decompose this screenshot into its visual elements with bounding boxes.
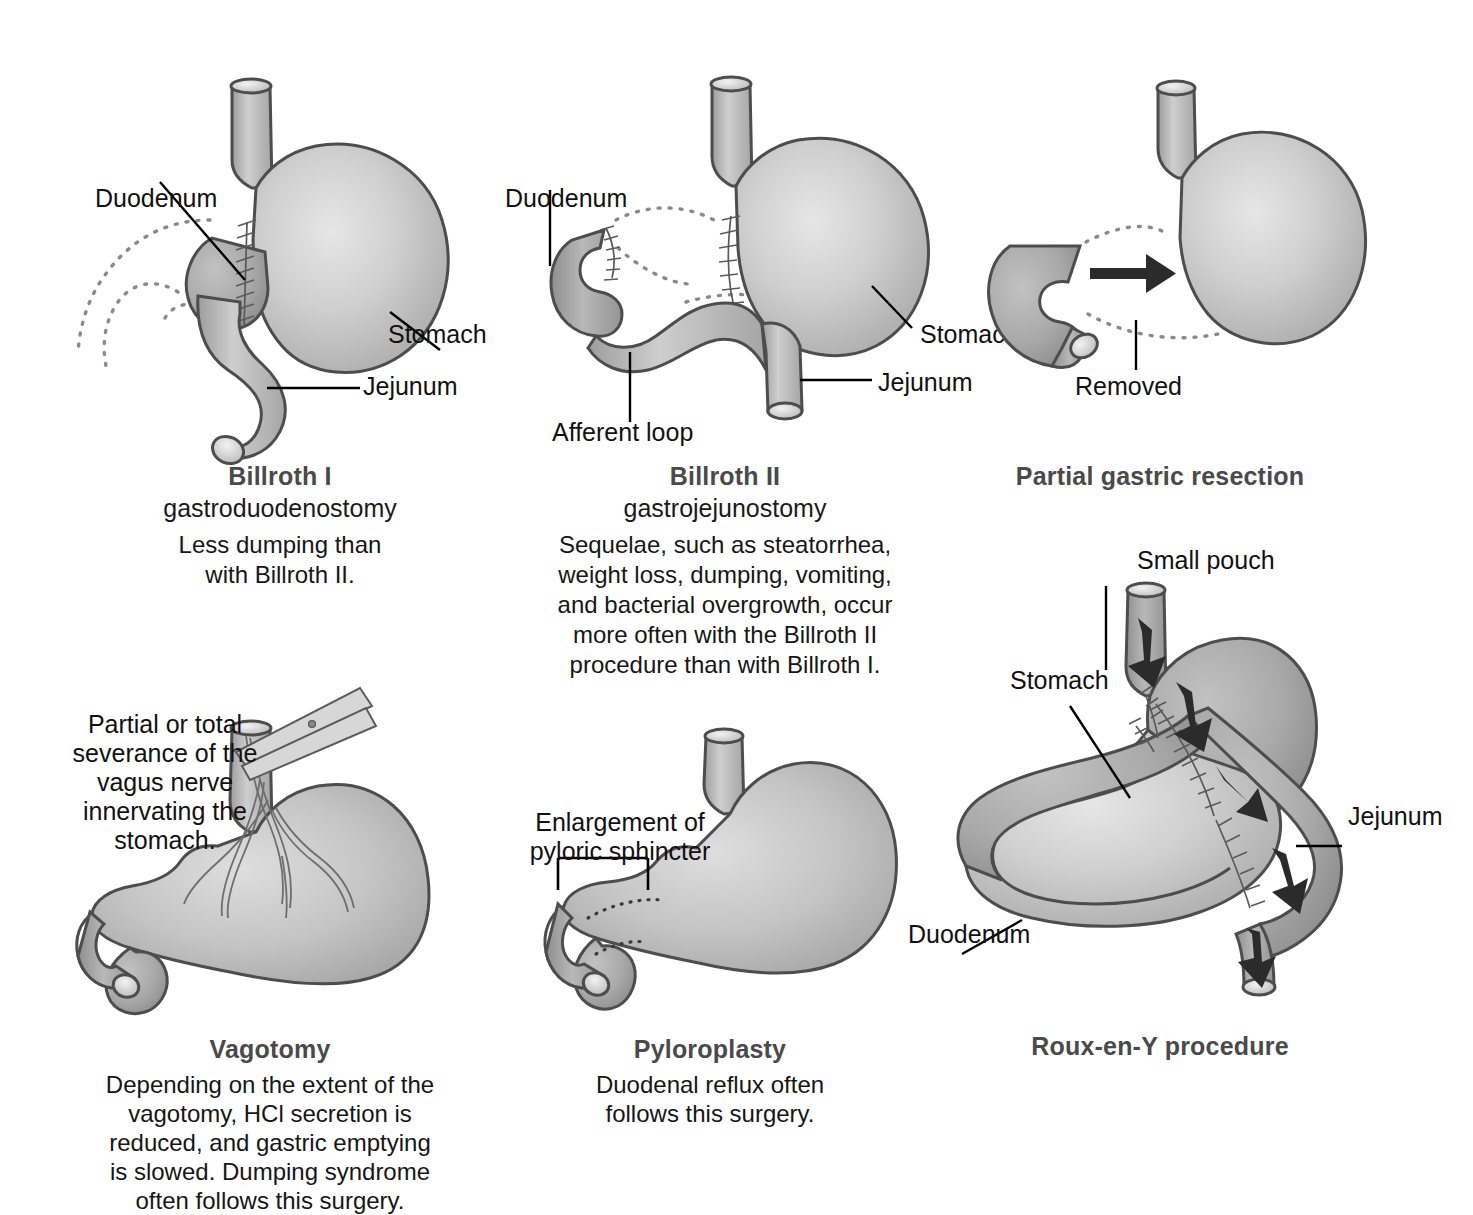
billroth-1-illustration xyxy=(60,70,500,460)
caption-title-roux-en-y: Roux-en-Y procedure xyxy=(930,1032,1390,1061)
caption-body-line4-b2: more often with the Billroth II xyxy=(500,620,950,649)
caption-body-line1-b2: Sequelae, such as steatorrhea, xyxy=(500,530,950,559)
caption-body-line3-b2: and bacterial overgrowth, occur xyxy=(500,590,950,619)
caption-body-line5-vagotomy: often follows this surgery. xyxy=(50,1186,490,1215)
label-duodenum-rxy: Duodenum xyxy=(908,920,1030,950)
label-duodenum-b2: Duodenum xyxy=(505,184,627,214)
label-stomach-b1: Stomach xyxy=(388,320,487,350)
caption-body-line1-b1: Less dumping than xyxy=(60,530,500,559)
partial-gastric-resection-illustration xyxy=(950,70,1370,400)
vagotomy-annotation-line4: innervating the xyxy=(60,797,270,827)
caption-body-line2-b2: weight loss, dumping, vomiting, xyxy=(500,560,950,589)
caption-title-pyloroplasty: Pyloroplasty xyxy=(500,1035,920,1064)
caption-body-line3-vagotomy: reduced, and gastric emptying xyxy=(50,1128,490,1157)
label-jejunum-rxy: Jejunum xyxy=(1348,802,1443,832)
caption-title-b1: Billroth I xyxy=(60,462,500,491)
roux-en-y-illustration xyxy=(900,530,1460,1030)
caption-subtitle-b1: gastroduodenostomy xyxy=(60,494,500,524)
caption-subtitle-b2: gastrojejunostomy xyxy=(500,494,950,524)
label-removed: Removed xyxy=(1075,372,1182,402)
label-small-pouch: Small pouch xyxy=(1137,546,1275,576)
caption-body-line1-pyloroplasty: Duodenal reflux often xyxy=(500,1070,920,1099)
vagotomy-annotation-line2: severance of the xyxy=(60,739,270,769)
caption-title-b2: Billroth II xyxy=(500,462,950,491)
caption-title-vagotomy: Vagotomy xyxy=(60,1035,480,1064)
caption-body-line4-vagotomy: is slowed. Dumping syndrome xyxy=(50,1157,490,1186)
label-afferent-loop-b2: Afferent loop xyxy=(552,418,693,448)
label-stomach-rxy: Stomach xyxy=(1010,666,1109,696)
caption-body-line2-b1: with Billroth II. xyxy=(60,560,500,589)
label-jejunum-b1: Jejunum xyxy=(363,372,458,402)
pyloroplasty-annotation-line1: Enlargement of xyxy=(520,808,720,838)
caption-body-line2-pyloroplasty: follows this surgery. xyxy=(500,1099,920,1128)
pyloroplasty-annotation-line2: pyloric sphincter xyxy=(512,837,728,867)
vagotomy-annotation-line1: Partial or total xyxy=(60,710,270,740)
vagotomy-annotation-line5: stomach. xyxy=(60,826,270,856)
caption-body-line1-vagotomy: Depending on the extent of the xyxy=(50,1070,490,1099)
label-duodenum-b1: Duodenum xyxy=(95,184,217,214)
vagotomy-annotation-line3: vagus nerve xyxy=(60,768,270,798)
caption-title-pgr: Partial gastric resection xyxy=(930,462,1390,491)
resection-arrow xyxy=(1090,254,1176,293)
caption-body-line2-vagotomy: vagotomy, HCl secretion is xyxy=(50,1099,490,1128)
caption-body-line5-b2: procedure than with Billroth I. xyxy=(500,650,950,679)
